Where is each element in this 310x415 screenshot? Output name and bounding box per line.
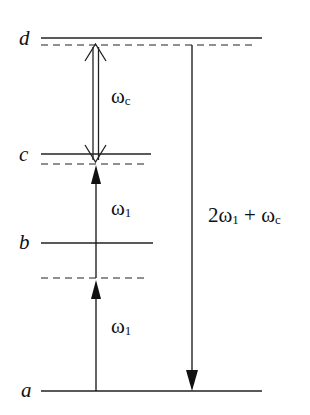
- omega1-lower-label: ω1: [111, 316, 131, 337]
- omega1-lower-arrow: [91, 280, 101, 391]
- level-d-label: d: [19, 28, 30, 49]
- level-c-label: c: [19, 144, 28, 165]
- level-a-label: a: [21, 380, 32, 401]
- omegac-label: ωc: [111, 86, 131, 107]
- omega1-upper-label: ω1: [111, 198, 131, 219]
- omegac-double-arrow: [85, 44, 106, 162]
- omega1-upper-arrow: [91, 165, 101, 278]
- emission-arrow: [186, 45, 198, 391]
- level-b-label: b: [19, 232, 30, 253]
- emission-label: 2ω1 + ωc: [208, 205, 281, 226]
